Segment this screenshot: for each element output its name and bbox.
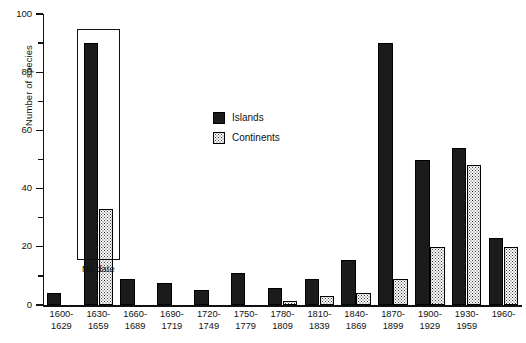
bar-islands-1810-1839 xyxy=(305,279,320,305)
bar-islands-1900-1929 xyxy=(415,160,430,306)
y-axis-title: Number of species xyxy=(23,6,34,166)
y-axis-tick-major xyxy=(36,130,43,131)
bar-islands-1660-1689 xyxy=(120,279,135,305)
x-axis-tick-label-line: 1960- xyxy=(478,309,526,321)
legend-label-continents: Continents xyxy=(232,132,280,143)
bar-islands-1690-1719 xyxy=(157,283,172,305)
bar-chart: Number of species 020406080100 No date 1… xyxy=(0,0,526,343)
x-axis-tick-label: 1960- xyxy=(478,309,526,321)
no-date-callout-label: No date xyxy=(63,264,134,274)
bar-islands-1780-1809 xyxy=(268,288,283,305)
y-axis-tick-label: 80 xyxy=(0,66,32,77)
bar-continents-1930-1959 xyxy=(467,165,482,305)
bar-islands-1870-1899 xyxy=(378,43,393,305)
legend-swatch-continents-icon xyxy=(213,132,225,144)
y-axis-tick-label: 40 xyxy=(0,182,32,193)
y-axis-tick-major xyxy=(36,246,43,247)
bar-islands-1720-1749 xyxy=(194,290,209,305)
bar-continents-1900-1929 xyxy=(430,247,445,305)
chart-legend: Islands Continents xyxy=(213,111,280,151)
legend-label-islands: Islands xyxy=(232,112,264,123)
y-axis-tick-label: 0 xyxy=(0,299,32,310)
no-date-callout-box xyxy=(77,29,120,260)
y-axis-tick-major xyxy=(36,188,43,189)
y-axis-tick-label: 20 xyxy=(0,240,32,251)
bar-continents-1960- xyxy=(504,247,519,305)
bar-islands-1930-1959 xyxy=(452,148,467,305)
y-axis-tick-label: 60 xyxy=(0,124,32,135)
bar-islands-1960- xyxy=(489,238,504,305)
y-axis-tick-major xyxy=(36,13,43,14)
y-axis-tick-major xyxy=(36,72,43,73)
bar-islands-1840-1869 xyxy=(341,260,356,305)
legend-item-islands: Islands xyxy=(213,111,280,124)
x-axis-labels: 1600-16291630-16591660-16891690-17191720… xyxy=(43,309,522,343)
bar-continents-1870-1899 xyxy=(393,279,408,305)
legend-swatch-islands-icon xyxy=(213,112,225,124)
bar-continents-1840-1869 xyxy=(356,293,371,305)
bar-islands-1600-1629 xyxy=(47,293,62,305)
legend-item-continents: Continents xyxy=(213,131,280,144)
x-axis-line xyxy=(43,305,522,307)
bar-continents-1810-1839 xyxy=(320,296,335,305)
x-axis-tick-label-line: 1959 xyxy=(441,321,493,333)
y-axis-tick-major xyxy=(36,304,43,305)
bar-islands-1750-1779 xyxy=(231,273,246,305)
y-axis-tick-label: 100 xyxy=(0,8,32,19)
